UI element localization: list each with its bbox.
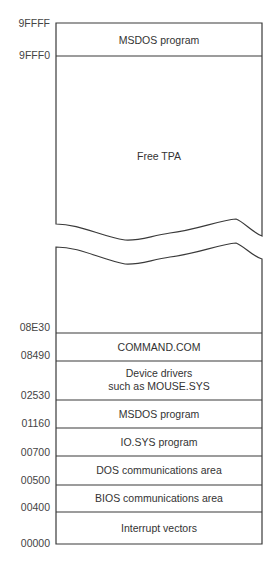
address-label: 00700 — [0, 446, 50, 458]
segment-label-bios-comm-area: BIOS communications area — [56, 492, 262, 505]
segment-label-io-sys: IO.SYS program — [56, 436, 262, 449]
segment-label-interrupt-vectors: Interrupt vectors — [56, 522, 262, 535]
segment-label-dos-comm-area: DOS communications area — [56, 464, 262, 477]
address-label: 00000 — [0, 537, 50, 549]
segment-label-device-drivers-line1: Device drivers — [56, 367, 262, 380]
address-label: 00400 — [0, 501, 50, 513]
segment-label-msdos-top: MSDOS program — [56, 34, 262, 47]
address-label: 02530 — [0, 389, 50, 401]
address-label: 00500 — [0, 474, 50, 486]
segment-label-device-drivers-line2: such as MOUSE.SYS — [56, 380, 262, 393]
segment-label-command-com: COMMAND.COM — [56, 341, 262, 354]
segment-label-msdos-program: MSDOS program — [56, 408, 262, 421]
address-label: 08E30 — [0, 321, 50, 333]
address-label: 01160 — [0, 417, 50, 429]
address-label: 08490 — [0, 349, 50, 361]
segment-label-free-tpa: Free TPA — [56, 150, 262, 163]
address-label: 9FFFF — [0, 17, 50, 29]
address-label: 9FFF0 — [0, 49, 50, 61]
